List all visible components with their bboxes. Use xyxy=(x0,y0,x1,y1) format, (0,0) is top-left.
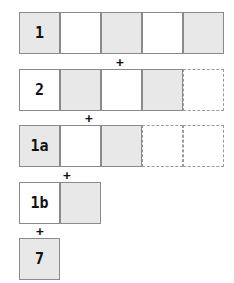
row-label-cell: 7 xyxy=(19,238,60,280)
row-label: 7 xyxy=(35,250,44,268)
block-cell xyxy=(60,12,101,54)
row-label-cell: 1b xyxy=(19,182,60,224)
plus-icon: + xyxy=(36,225,44,238)
block-cell xyxy=(101,69,142,111)
row-label-cell: 1 xyxy=(19,12,60,54)
row-label-cell: 2 xyxy=(19,69,60,111)
row-label: 1b xyxy=(30,194,48,212)
block-cell xyxy=(101,125,142,167)
placeholder-cell xyxy=(142,125,183,167)
row-label: 1a xyxy=(30,137,48,155)
row-label: 2 xyxy=(35,81,44,99)
row-label: 1 xyxy=(35,24,44,42)
block-cell xyxy=(183,12,224,54)
plus-icon: + xyxy=(116,56,124,69)
block-cell xyxy=(101,12,142,54)
plus-icon: + xyxy=(85,112,93,125)
placeholder-cell xyxy=(183,69,224,111)
row-label-cell: 1a xyxy=(19,125,60,167)
plus-icon: + xyxy=(63,169,71,182)
block-cell xyxy=(60,69,101,111)
placeholder-cell xyxy=(183,125,224,167)
block-cell xyxy=(142,69,183,111)
block-cell xyxy=(142,12,183,54)
block-cell xyxy=(60,182,101,224)
block-cell xyxy=(60,125,101,167)
